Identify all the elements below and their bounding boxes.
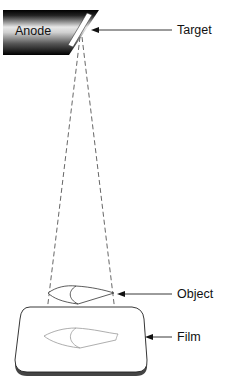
- xray-diagram: Anode Target Object Film: [0, 0, 226, 385]
- object-arrow: [117, 291, 172, 297]
- film: [15, 307, 147, 376]
- film-label: Film: [177, 330, 201, 344]
- object-label: Object: [177, 287, 214, 301]
- object-shape: [48, 286, 114, 304]
- film-sheet: [15, 307, 147, 372]
- anode-label: Anode: [15, 24, 51, 38]
- film-arrow: [145, 334, 172, 340]
- target-label: Target: [177, 23, 212, 37]
- target-arrow: [91, 27, 172, 33]
